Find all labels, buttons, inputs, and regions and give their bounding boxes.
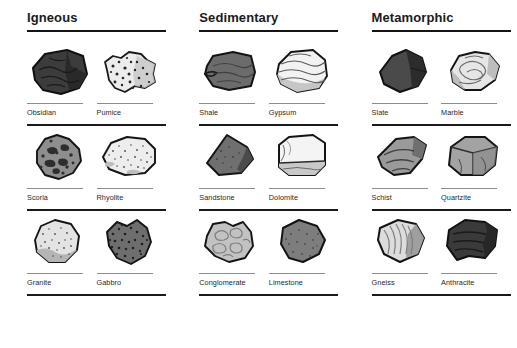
gabbro-icon	[97, 214, 163, 270]
label-cell: Rhyolite	[97, 188, 167, 208]
specimen-row	[199, 126, 338, 188]
slate-icon	[372, 44, 438, 100]
sandstone-icon	[199, 129, 265, 185]
shale-icon	[199, 44, 265, 100]
specimen-row	[372, 126, 511, 188]
specimen-granite[interactable]	[27, 211, 97, 273]
specimen-label-pumice: Pumice	[97, 108, 122, 118]
label-cell: Granite	[27, 273, 97, 293]
label-rule	[269, 188, 325, 189]
specimen-row	[199, 211, 338, 273]
label-cell: Pumice	[97, 103, 167, 123]
specimen-scoria[interactable]	[27, 126, 97, 188]
specimen-gneiss[interactable]	[372, 211, 442, 273]
specimen-row	[372, 41, 511, 103]
label-cell: Conglomerate	[199, 273, 269, 293]
specimen-label-rhyolite: Rhyolite	[97, 193, 124, 203]
label-row: Schist Quartzite	[372, 188, 511, 208]
specimen-label-anthracite: Anthracite	[441, 278, 474, 288]
label-cell: Quartzite	[441, 188, 511, 208]
specimen-dolomite[interactable]	[269, 126, 339, 188]
specimen-schist[interactable]	[372, 126, 442, 188]
label-rule	[97, 188, 153, 189]
label-cell: Gneiss	[372, 273, 442, 293]
column-metamorphic: Metamorphic	[345, 0, 517, 348]
label-rule	[97, 103, 153, 104]
specimen-quartzite[interactable]	[441, 126, 511, 188]
label-rule	[441, 273, 497, 274]
table-row: Gneiss Anthracite	[372, 211, 511, 296]
label-cell: Gabbro	[97, 273, 167, 293]
label-row: Slate Marble	[372, 103, 511, 123]
specimen-label-conglomerate: Conglomerate	[199, 278, 245, 288]
table-row: Conglomerate Limestone	[199, 211, 338, 296]
label-cell: Sandstone	[199, 188, 269, 208]
label-rule	[97, 273, 153, 274]
label-row: Gneiss Anthracite	[372, 273, 511, 293]
granite-icon	[27, 214, 93, 270]
specimen-gypsum[interactable]	[269, 41, 339, 103]
row-divider	[27, 294, 166, 296]
specimen-slate[interactable]	[372, 41, 442, 103]
table-row: Granite Gabbro	[27, 211, 166, 296]
gneiss-icon	[372, 214, 438, 270]
label-cell: Obsidian	[27, 103, 97, 123]
specimen-conglomerate[interactable]	[199, 211, 269, 273]
column-title-igneous: Igneous	[27, 0, 166, 27]
row-divider	[372, 294, 511, 296]
specimen-label-gabbro: Gabbro	[97, 278, 122, 288]
table-row: Sandstone Dolomite	[199, 126, 338, 211]
label-cell: Shale	[199, 103, 269, 123]
label-cell: Scoria	[27, 188, 97, 208]
specimen-label-limestone: Limestone	[269, 278, 303, 288]
chart-columns: Igneous	[0, 0, 517, 348]
specimen-shale[interactable]	[199, 41, 269, 103]
label-rule	[441, 188, 497, 189]
specimen-gabbro[interactable]	[97, 211, 167, 273]
specimen-label-shale: Shale	[199, 108, 218, 118]
label-rule	[372, 103, 428, 104]
schist-icon	[372, 129, 438, 185]
table-row: Obsidian Pumice	[27, 41, 166, 126]
pumice-icon	[97, 44, 163, 100]
label-cell: Limestone	[269, 273, 339, 293]
specimen-limestone[interactable]	[269, 211, 339, 273]
specimen-row	[199, 41, 338, 103]
specimen-label-marble: Marble	[441, 108, 464, 118]
row-divider	[199, 294, 338, 296]
quartzite-icon	[441, 129, 507, 185]
specimen-anthracite[interactable]	[441, 211, 511, 273]
gypsum-icon	[269, 44, 335, 100]
obsidian-icon	[27, 44, 93, 100]
label-rule	[27, 273, 83, 274]
table-row: Shale Gypsum	[199, 41, 338, 126]
specimen-label-dolomite: Dolomite	[269, 193, 298, 203]
rock-types-chart: Igneous	[0, 0, 517, 348]
specimen-label-schist: Schist	[372, 193, 392, 203]
specimen-obsidian[interactable]	[27, 41, 97, 103]
specimen-row	[372, 211, 511, 273]
label-cell: Gypsum	[269, 103, 339, 123]
scoria-icon	[27, 129, 93, 185]
specimen-label-gypsum: Gypsum	[269, 108, 296, 118]
label-row: Shale Gypsum	[199, 103, 338, 123]
marble-icon	[441, 44, 507, 100]
specimen-label-sandstone: Sandstone	[199, 193, 234, 203]
specimen-row	[27, 126, 166, 188]
column-sedimentary: Sedimentary	[172, 0, 344, 348]
anthracite-icon	[441, 214, 507, 270]
label-rule	[199, 188, 255, 189]
specimen-rhyolite[interactable]	[97, 126, 167, 188]
specimen-sandstone[interactable]	[199, 126, 269, 188]
label-cell: Dolomite	[269, 188, 339, 208]
specimen-pumice[interactable]	[97, 41, 167, 103]
specimen-marble[interactable]	[441, 41, 511, 103]
label-rule	[199, 103, 255, 104]
label-row: Sandstone Dolomite	[199, 188, 338, 208]
specimen-label-granite: Granite	[27, 278, 51, 288]
specimen-label-slate: Slate	[372, 108, 389, 118]
specimen-row	[27, 41, 166, 103]
table-row: Schist Quartzite	[372, 126, 511, 211]
specimen-label-gneiss: Gneiss	[372, 278, 395, 288]
rhyolite-icon	[97, 129, 163, 185]
